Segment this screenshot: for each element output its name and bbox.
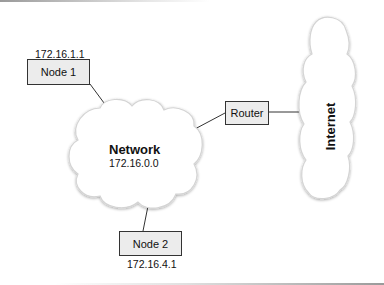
- router-box[interactable]: Router: [225, 101, 269, 125]
- node2-box[interactable]: Node 2: [119, 231, 182, 256]
- node2-label: Node 2: [133, 238, 168, 250]
- node1-box[interactable]: Node 1: [27, 59, 90, 85]
- network-diagram: 172.16.1.1 Node 1 Network 172.16.0.0 Rou…: [0, 0, 384, 285]
- network-address: 172.16.0.0: [109, 157, 159, 169]
- internet-label: Internet: [323, 99, 338, 155]
- node2-address: 172.16.4.1: [127, 258, 177, 270]
- link-network-router: [193, 113, 225, 130]
- router-label: Router: [230, 107, 263, 119]
- node1-label: Node 1: [41, 66, 76, 78]
- link-network-node2: [143, 206, 148, 231]
- network-title: Network: [109, 142, 160, 157]
